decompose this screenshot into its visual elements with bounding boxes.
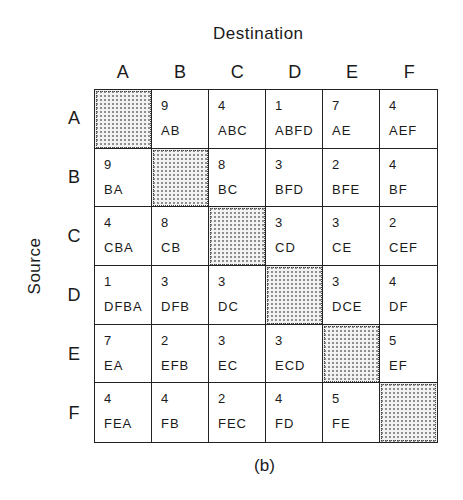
route-cost: 4 <box>389 157 396 172</box>
route-cost: 4 <box>161 391 168 406</box>
figure-caption: (b) <box>0 456 463 476</box>
route-cell: 3DC <box>209 266 266 325</box>
column-headers: A B C D E F <box>94 62 438 86</box>
route-cost: 5 <box>332 391 339 406</box>
route-path: FEA <box>104 416 132 431</box>
route-cost: 3 <box>218 274 225 289</box>
route-cell: 2EFB <box>152 325 209 384</box>
route-cost: 1 <box>104 274 111 289</box>
route-path: EC <box>218 358 238 373</box>
route-cell: 1ABFD <box>266 90 323 149</box>
route-cost: 9 <box>104 157 111 172</box>
route-cost: 3 <box>332 215 339 230</box>
column-header: C <box>209 62 266 86</box>
route-cell: 3CD <box>266 207 323 266</box>
column-header: D <box>266 62 323 86</box>
route-cell: 4CBA <box>95 207 152 266</box>
column-header: F <box>381 62 438 86</box>
route-cost: 3 <box>218 333 225 348</box>
route-path: FD <box>275 416 294 431</box>
route-cell: 3DFB <box>152 266 209 325</box>
route-cell: 3DCE <box>323 266 380 325</box>
route-cell: 5FE <box>323 383 380 442</box>
route-path: FE <box>332 416 351 431</box>
route-path: AB <box>161 123 180 138</box>
route-cost: 7 <box>332 98 339 113</box>
diagonal-cell <box>380 383 437 442</box>
route-cell: 7EA <box>95 325 152 384</box>
route-path: BA <box>104 182 123 197</box>
route-path: EA <box>104 358 123 373</box>
route-cost: 3 <box>161 274 168 289</box>
route-path: DF <box>389 299 408 314</box>
route-cost: 9 <box>161 98 168 113</box>
diagonal-cell <box>266 266 323 325</box>
row-header: B <box>62 148 86 207</box>
route-cell: 5EF <box>380 325 437 384</box>
route-path: CD <box>275 240 296 255</box>
route-cost: 2 <box>389 215 396 230</box>
route-path: BF <box>389 182 408 197</box>
column-header: A <box>94 62 151 86</box>
route-path: AE <box>332 123 351 138</box>
route-cell: 4BF <box>380 149 437 208</box>
route-path: DFB <box>161 299 190 314</box>
route-cost: 2 <box>161 333 168 348</box>
route-cell: 9AB <box>152 90 209 149</box>
column-header: E <box>323 62 380 86</box>
route-cost: 5 <box>389 333 396 348</box>
route-cost: 4 <box>218 98 225 113</box>
route-path: DCE <box>332 299 362 314</box>
route-cell: 4ABC <box>209 90 266 149</box>
route-cell: 4AEF <box>380 90 437 149</box>
route-cell: 8BC <box>209 149 266 208</box>
route-cost: 3 <box>275 215 282 230</box>
route-cost: 4 <box>389 98 396 113</box>
route-cell: 3ECD <box>266 325 323 384</box>
route-cell: 2BFE <box>323 149 380 208</box>
route-path: CE <box>332 240 352 255</box>
route-path: FEC <box>218 416 247 431</box>
route-cost: 8 <box>218 157 225 172</box>
row-header: D <box>62 266 86 325</box>
route-cost: 1 <box>275 98 282 113</box>
row-header: A <box>62 89 86 148</box>
route-cell: 4FD <box>266 383 323 442</box>
route-path: EF <box>389 358 408 373</box>
route-path: ABFD <box>275 123 314 138</box>
route-cell: 4FEA <box>95 383 152 442</box>
destination-axis-title: Destination <box>213 24 304 44</box>
route-path: CB <box>161 240 181 255</box>
route-cell: 1DFBA <box>95 266 152 325</box>
route-path: BFE <box>332 182 360 197</box>
route-path: EFB <box>161 358 189 373</box>
route-cell: 4FB <box>152 383 209 442</box>
route-cell: 2CEF <box>380 207 437 266</box>
route-cost: 4 <box>104 391 111 406</box>
route-cost: 3 <box>275 333 282 348</box>
route-cell: 9BA <box>95 149 152 208</box>
route-cost: 3 <box>332 274 339 289</box>
routing-table-grid: 9AB4ABC1ABFD7AE4AEF9BA8BC3BFD2BFE4BF4CBA… <box>94 89 438 443</box>
source-axis-title: Source <box>25 238 45 295</box>
route-path: BFD <box>275 182 304 197</box>
row-header: C <box>62 207 86 266</box>
row-header: F <box>62 384 86 443</box>
route-cell: 2FEC <box>209 383 266 442</box>
route-cost: 2 <box>332 157 339 172</box>
column-header: B <box>151 62 208 86</box>
route-path: DC <box>218 299 239 314</box>
row-header: E <box>62 325 86 384</box>
diagonal-cell <box>209 207 266 266</box>
route-path: BC <box>218 182 238 197</box>
route-path: ECD <box>275 358 305 373</box>
route-path: AEF <box>389 123 417 138</box>
diagonal-cell <box>152 149 209 208</box>
route-cost: 4 <box>104 215 111 230</box>
route-cost: 7 <box>104 333 111 348</box>
route-cost: 2 <box>218 391 225 406</box>
route-cell: 7AE <box>323 90 380 149</box>
row-headers: A B C D E F <box>62 89 86 443</box>
route-cost: 4 <box>389 274 396 289</box>
diagonal-cell <box>323 325 380 384</box>
